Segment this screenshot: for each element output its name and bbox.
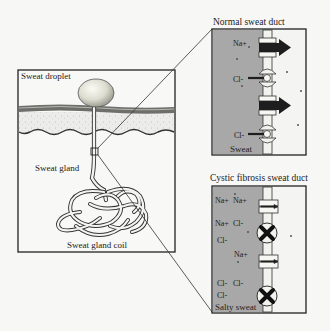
sweat-droplet [78, 79, 114, 107]
ion-label-cl: Cl- [233, 219, 244, 228]
ion-label-na: Na+ [233, 196, 247, 205]
normal-duct-title: Normal sweat duct [213, 17, 285, 27]
label-sweat-droplet: Sweat droplet [21, 71, 71, 81]
label-salty-sweat: Salty sweat [215, 302, 257, 312]
label-sweat: Sweat [230, 144, 252, 154]
normal-duct-panel: Normal sweat duct [212, 17, 306, 155]
sodium-channel [259, 255, 278, 268]
ion-label-cl: Cl- [217, 279, 228, 288]
label-sweat-gland-coil: Sweat gland coil [67, 240, 127, 250]
sodium-channel [259, 200, 278, 213]
ion-label-na: Na+ [233, 39, 247, 48]
ion-label-cl: Cl- [234, 131, 245, 140]
ion-label-cl: Cl- [233, 75, 244, 84]
ion-label-cl: Cl- [217, 291, 228, 300]
overview-panel: Sweat droplet Sweat gland Sweat gland co… [18, 70, 175, 252]
label-sweat-gland: Sweat gland [35, 163, 80, 173]
cf-duct-title: Cystic fibrosis sweat duct [210, 173, 308, 183]
cf-duct-panel: Cystic fibrosis sweat duct [210, 173, 308, 313]
ion-label-cl: Cl- [233, 279, 244, 288]
blocked-chloride-channel [257, 223, 277, 243]
sweat-duct-diagram: Sweat droplet Sweat gland Sweat gland co… [0, 0, 330, 331]
ion-label-cl: Cl- [217, 236, 228, 245]
ion-label-na: Na+ [234, 250, 248, 259]
ion-label-na: Na+ [215, 196, 229, 205]
ion-label-na: Na+ [215, 219, 229, 228]
blocked-chloride-channel [257, 286, 277, 306]
